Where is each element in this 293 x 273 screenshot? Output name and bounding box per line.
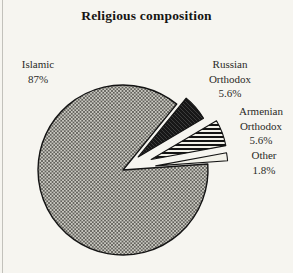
slice-label-russian-orthodox: Russian Orthodox 5.6% xyxy=(198,57,262,101)
scanned-chart-page: Religious composition Islamic 87% Russia… xyxy=(0,0,293,273)
slice-label-islamic: Islamic 87% xyxy=(10,57,66,86)
slice-label-other: Other 1.8% xyxy=(236,148,292,177)
slice-label-armenian-orthodox: Armenian Orthodox 5.6% xyxy=(229,104,293,148)
